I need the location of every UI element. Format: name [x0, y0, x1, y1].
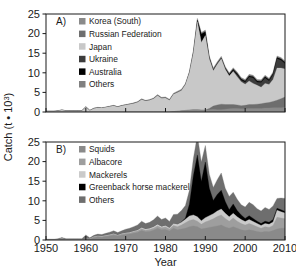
- y-tick-label: 20: [28, 155, 40, 167]
- y-title-close: ): [2, 93, 14, 97]
- panel-label-B: B): [56, 144, 66, 155]
- y-tick-label: 5: [34, 86, 40, 98]
- legend-swatch: [79, 146, 86, 153]
- legend-swatch: [79, 56, 86, 63]
- legend-label: Russian Federation: [89, 29, 162, 39]
- legend-label: Australia: [89, 67, 122, 77]
- panel-B: 0510152025B)SquidsAlbacoreMackerelsGreen…: [28, 135, 285, 245]
- legend-label: Others: [89, 79, 114, 89]
- y-title-mult: • 10: [2, 101, 14, 120]
- legend-label: Mackerels: [89, 170, 127, 180]
- x-tick-label: 1990: [193, 242, 217, 254]
- x-tick-label: 1950: [34, 242, 58, 254]
- legend-label: Greenback horse mackerel: [89, 182, 190, 192]
- legend-label: Korea (South): [89, 16, 141, 26]
- y-tick-label: 25: [28, 8, 40, 20]
- y-tick-label: 20: [28, 27, 40, 39]
- x-axis-title: Year: [154, 256, 177, 268]
- y-tick-label: 5: [34, 214, 40, 226]
- y-tick-label: 10: [28, 195, 40, 207]
- legend-B: SquidsAlbacoreMackerelsGreenback horse m…: [79, 144, 190, 204]
- y-tick-label: 15: [28, 47, 40, 59]
- x-tick-label: 1970: [113, 242, 137, 254]
- legend-A: Korea (South)Russian FederationJapanUkra…: [79, 16, 162, 89]
- legend-swatch: [79, 31, 86, 37]
- panel-label-A: A): [56, 16, 66, 27]
- x-tick-label: 2010: [273, 242, 296, 254]
- y-axis-title-text: Catch (t • 103): [2, 93, 14, 162]
- legend-label: Others: [89, 195, 114, 205]
- panel-A: 0510152025A)Korea (South)Russian Federat…: [28, 8, 285, 118]
- legend-swatch: [79, 18, 86, 25]
- legend-swatch: [79, 68, 86, 75]
- legend-swatch: [79, 43, 86, 50]
- x-tick-label: 2000: [233, 242, 257, 254]
- legend-swatch: [79, 196, 86, 203]
- legend-label: Japan: [89, 42, 112, 52]
- y-tick-label: 10: [28, 67, 40, 79]
- y-tick-label: 0: [34, 106, 40, 118]
- legend-swatch: [79, 171, 86, 178]
- y-title-main: Catch (t: [2, 120, 14, 162]
- legend-label: Albacore: [89, 157, 122, 167]
- y-axis-title: Catch (t • 103): [2, 93, 14, 162]
- legend-label: Ukraine: [89, 54, 118, 64]
- y-tick-label: 25: [28, 136, 40, 148]
- stacked-area-chart: 0510152025A)Korea (South)Russian Federat…: [0, 0, 296, 269]
- legend-swatch: [79, 81, 86, 88]
- legend-swatch: [79, 159, 86, 166]
- x-tick-label: 1960: [74, 242, 98, 254]
- y-tick-label: 15: [28, 175, 40, 187]
- legend-label: Squids: [89, 144, 115, 154]
- figure-container: 0510152025A)Korea (South)Russian Federat…: [0, 0, 296, 269]
- legend-swatch: [79, 184, 86, 191]
- x-tick-label: 1980: [153, 242, 177, 254]
